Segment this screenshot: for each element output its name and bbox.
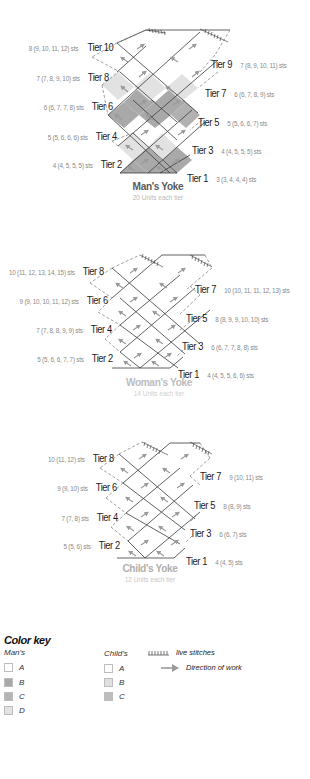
swatch-c-icon xyxy=(104,692,113,701)
childs-key-b: B xyxy=(104,678,124,687)
mans-tier-4-label: 5 (5, 6, 6, 6) sts Tier 4 xyxy=(48,127,117,143)
childs-yoke-title: Child's Yoke 12 Units each tier xyxy=(90,563,210,583)
mans-tier-6-label: 6 (6, 7, 7, 8) sts Tier 6 xyxy=(44,97,113,113)
mans-key-b: B xyxy=(4,678,24,687)
swatch-a-icon xyxy=(104,664,113,673)
womans-tier-8-label: 10 (11, 12, 13, 14, 15) sts Tier 8 xyxy=(9,262,104,278)
womans-tier-2-label: 5 (5, 6, 6, 7, 7) sts Tier 2 xyxy=(37,349,113,365)
mans-key-d: D xyxy=(4,706,25,715)
mans-tier-7-label: Tier 7 6 (6, 7, 8, 9) sts xyxy=(205,84,274,100)
swatch-c-icon xyxy=(4,692,13,701)
womans-tier-4-label: 7 (7, 8, 8, 9, 9) sts Tier 4 xyxy=(36,320,112,336)
legend-live-stitches: live stitches xyxy=(148,648,215,657)
mans-tier-10-label: 8 (9, 10, 11, 12) sts Tier 10 xyxy=(29,38,113,54)
swatch-a-icon xyxy=(4,663,13,672)
childs-tier-8-label: 10 (11, 12) sts Tier 8 xyxy=(48,449,114,465)
childs-key-a: A xyxy=(104,664,124,673)
swatch-b-icon xyxy=(4,678,13,687)
childs-live-stitches xyxy=(142,442,212,455)
mans-key-title: Man's xyxy=(4,648,25,657)
mans-key-c: C xyxy=(4,692,25,701)
tick-marks-icon xyxy=(148,650,170,656)
womans-tier-7-label: Tier 7 10 (10, 11, 11, 12, 13) sts xyxy=(195,280,290,296)
mans-yoke-title: Man's Yoke 20 Units each tier xyxy=(98,181,218,201)
mans-tier-3-label: Tier 3 4 (4, 5, 5, 5) sts xyxy=(192,141,261,157)
mans-yoke-diagram: 8 (9, 10, 11, 12) sts Tier 10 7 (7, 8, 9… xyxy=(0,0,310,210)
childs-tier-4-label: 7 (7, 8) sts Tier 4 xyxy=(61,508,118,524)
childs-tier-3-label: Tier 3 6 (6, 7) sts xyxy=(190,524,247,540)
womans-direction-arrows xyxy=(117,269,184,366)
childs-key-title: Child's xyxy=(104,649,128,658)
mans-tier-5-label: Tier 5 5 (5, 6, 6, 7) sts xyxy=(198,113,267,129)
color-key: Color key Man's A B C D Child's A B C li… xyxy=(4,634,304,714)
color-key-heading: Color key xyxy=(4,634,51,646)
swatch-d-icon xyxy=(4,706,13,715)
womans-yoke-diagram: 10 (11, 12, 13, 14, 15) sts Tier 8 9 (9,… xyxy=(0,250,310,400)
mans-key-a: A xyxy=(4,663,24,672)
womans-tier-3-label: Tier 3 6 (6, 7, 7, 8, 8) sts xyxy=(182,337,258,353)
swatch-b-icon xyxy=(104,678,113,687)
childs-tier-2-label: 5 (5, 6) sts Tier 2 xyxy=(63,536,120,552)
childs-tier-5-label: Tier 5 8 (8, 9) sts xyxy=(194,496,251,512)
mans-tier-2-label: 4 (4, 5, 5, 5) sts Tier 2 xyxy=(53,155,122,171)
mans-tier-9-label: Tier 9 7 (8, 9, 10, 11) sts xyxy=(211,55,286,71)
mans-tier-8-label: 7 (7, 8, 9, 10) sts Tier 8 xyxy=(36,68,109,84)
childs-key-c: C xyxy=(104,692,125,701)
womans-yoke-title: Woman's Yoke 14 Units each tier xyxy=(99,377,219,397)
womans-tier-6-label: 9 (9, 10, 10, 11, 12) sts Tier 6 xyxy=(20,291,108,307)
childs-tier-6-label: 9 (9, 10) sts Tier 6 xyxy=(57,478,117,494)
childs-yoke-diagram: 10 (11, 12) sts Tier 8 9 (9, 10) sts Tie… xyxy=(0,440,310,590)
childs-tier-7-label: Tier 7 9 (10, 11) sts xyxy=(200,467,263,483)
arrow-right-icon xyxy=(160,664,180,672)
legend-direction: Direction of work xyxy=(160,663,242,672)
womans-tier-5-label: Tier 5 8 (8, 9, 9, 10, 10) sts xyxy=(186,309,268,325)
